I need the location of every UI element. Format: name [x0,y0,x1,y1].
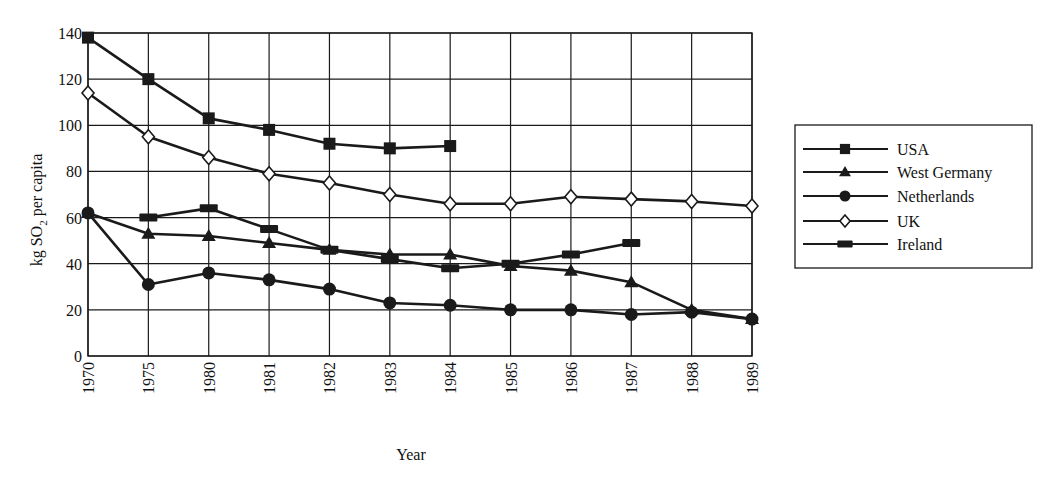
y-tick-label: 20 [66,302,82,319]
series-uk [82,86,758,213]
plot-frame [88,33,752,356]
y-axis-ticks: 020406080100120140 [58,25,82,365]
diamond-marker [203,151,215,165]
series-lines [81,32,759,326]
circle-marker [383,296,396,309]
bar-marker [502,260,520,268]
x-axis-title: Year [396,446,426,463]
line-chart: 020406080100120140 197019751980198119821… [0,0,1055,488]
diamond-marker [384,188,396,202]
circle-marker [504,303,517,316]
bar-marker [441,264,459,272]
diamond-marker [82,86,94,100]
series-line [88,93,752,206]
diamond-marker [625,192,637,206]
circle-marker [444,299,457,312]
x-tick-label: 1988 [684,362,701,394]
square-marker [142,73,154,85]
circle-marker [202,266,215,279]
diamond-marker [142,130,154,144]
legend: USAWest GermanyNetherlandsUKIreland [795,125,1032,268]
x-tick-label: 1980 [201,362,218,394]
diamond-marker [263,167,275,181]
x-tick-label: 1989 [744,362,761,394]
grid-lines [88,33,752,356]
x-tick-label: 1984 [442,362,459,394]
diamond-marker [323,176,335,190]
bar-marker [320,246,338,254]
diamond-marker [565,190,577,204]
series-netherlands [82,206,759,325]
y-tick-label: 60 [66,210,82,227]
bar-marker [139,214,157,222]
square-marker [840,144,850,154]
diamond-marker [444,197,456,211]
legend-label: USA [897,141,929,158]
square-marker [384,142,396,154]
bar-marker [200,204,218,212]
bar-marker [837,241,852,248]
diamond-marker [746,199,758,213]
circle-marker [625,308,638,321]
legend-label: West Germany [897,164,992,182]
x-tick-label: 1970 [80,362,97,394]
y-tick-label: 100 [58,117,82,134]
legend-label: UK [897,213,921,230]
bar-marker [260,225,278,233]
circle-marker [323,283,336,296]
circle-marker [82,206,95,219]
circle-marker [564,303,577,316]
circle-marker [685,306,698,319]
x-tick-label: 1983 [382,362,399,394]
series-line [88,213,752,319]
x-tick-label: 1981 [261,362,278,394]
diamond-marker [686,194,698,208]
x-axis-ticks: 1970197519801981198219831984198519861987… [80,362,761,394]
square-marker [444,140,456,152]
circle-marker [839,190,850,201]
circle-marker [142,278,155,291]
legend-label: Ireland [897,236,942,253]
diamond-marker [505,197,517,211]
x-tick-label: 1986 [563,362,580,394]
y-tick-label: 80 [66,163,82,180]
x-tick-label: 1987 [623,362,640,394]
x-tick-label: 1985 [503,362,520,394]
x-tick-label: 1975 [140,362,157,394]
square-marker [82,32,94,44]
bar-marker [562,250,580,258]
y-tick-label: 120 [58,71,82,88]
circle-marker [263,273,276,286]
circle-marker [746,313,759,326]
square-marker [323,138,335,150]
y-tick-label: 40 [66,256,82,273]
square-marker [203,112,215,124]
bar-marker [381,255,399,263]
y-tick-label: 140 [58,25,82,42]
bar-marker [622,239,640,247]
legend-label: Netherlands [897,188,974,205]
y-axis-title: kg SO2 per capita [28,154,49,267]
x-tick-label: 1982 [321,362,338,394]
square-marker [263,124,275,136]
